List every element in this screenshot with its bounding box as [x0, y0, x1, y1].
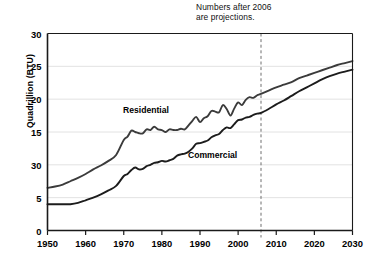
x-tick-label: 2000 [228, 238, 249, 249]
y-tick-label: 5 [16, 192, 42, 203]
y-tick-label: 25 [16, 61, 42, 72]
x-tick-label: 2020 [304, 238, 325, 249]
y-tick-label: 15 [16, 127, 42, 138]
y-tick-label: 30 [16, 159, 42, 170]
y-tick-label: 20 [16, 94, 42, 105]
x-tick-label: 1980 [151, 238, 172, 249]
x-tick-label: 1970 [113, 238, 134, 249]
series-label-commercial: Commercial [188, 150, 237, 160]
projection-note-line-1: Numbers after 2006 [196, 2, 346, 12]
plot-canvas [0, 0, 369, 259]
y-tick-label: 0 [16, 225, 42, 236]
y-tick-label: 30 [16, 28, 42, 39]
series-lines [48, 61, 353, 204]
x-tick-label: 2030 [342, 238, 363, 249]
energy-consumption-chart: Numbers after 2006 are projections. Quad… [0, 0, 369, 259]
x-tick-label: 1990 [190, 238, 211, 249]
x-tick-label: 1950 [37, 238, 58, 249]
projection-note: Numbers after 2006 are projections. [196, 2, 346, 22]
x-tick-label: 1960 [75, 238, 96, 249]
series-label-residential: Residential [123, 105, 169, 115]
gridlines [48, 34, 353, 198]
series-line-commercial [48, 70, 353, 205]
projection-note-line-2: are projections. [196, 12, 346, 22]
series-line-residential [48, 61, 353, 188]
x-tick-label: 2010 [266, 238, 287, 249]
